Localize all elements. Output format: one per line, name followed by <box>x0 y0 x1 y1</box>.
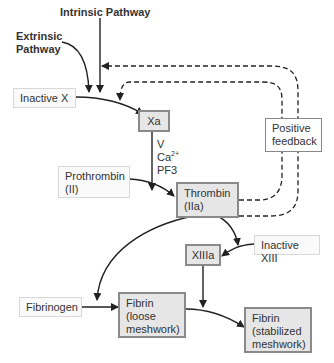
xiiia-node: XIIIa <box>185 244 221 266</box>
fibrin-stable-line2: (stabilized <box>252 325 304 338</box>
fibrin-loose-line1: Fibrin <box>126 297 178 310</box>
thrombin-node: Thrombin (IIa) <box>176 182 239 218</box>
positive-feedback-node: Positive feedback <box>265 118 322 152</box>
extrinsic-line2: Pathway <box>16 43 62 56</box>
cofactor-ca: Ca2+ <box>157 151 179 164</box>
fibrin-loose-node: Fibrin (loose meshwork) <box>118 292 186 338</box>
positive-feedback-line1: Positive <box>272 122 315 135</box>
thrombin-line2: (IIa) <box>184 200 231 213</box>
intrinsic-pathway-label: Intrinsic Pathway <box>60 6 150 19</box>
cofactor-pf3: PF3 <box>157 164 179 177</box>
prothrombin-line1: Prothrombin <box>65 170 123 183</box>
prothrombin-line2: (II) <box>65 183 123 196</box>
positive-feedback-line2: feedback <box>272 135 315 148</box>
inactive-x-label: Inactive X <box>20 92 68 104</box>
fibrin-stable-line1: Fibrin <box>252 312 304 325</box>
inactive-xiii-to-xiiia-arrow <box>222 244 254 256</box>
inactive-x-to-xa-arrow <box>76 97 143 114</box>
thrombin-to-fibrin-arrow <box>97 216 193 300</box>
thrombin-to-xiiia-arrow <box>215 215 238 245</box>
fibrin-loose-line3: meshwork) <box>126 323 178 336</box>
extrinsic-arrow <box>62 42 89 92</box>
inactive-xiii-node: Inactive XIII <box>254 235 320 255</box>
inactive-x-node: Inactive X <box>13 88 76 108</box>
fibrin-stable-line3: meshwork) <box>252 338 304 351</box>
xiiia-label: XIIIa <box>192 249 215 261</box>
cofactor-v: V <box>157 138 179 151</box>
fibrinogen-node: Fibrinogen <box>19 297 82 317</box>
thrombin-line1: Thrombin <box>184 187 231 200</box>
extrinsic-line1: Extrinsic <box>16 30 62 43</box>
prothrombin-node: Prothrombin (II) <box>58 166 130 198</box>
xa-label: Xa <box>147 115 160 127</box>
fibrin-loose-line2: (loose <box>126 310 178 323</box>
fibrin-stable-node: Fibrin (stabilized meshwork) <box>244 307 312 353</box>
xa-node: Xa <box>138 110 170 132</box>
fibrinogen-label: Fibrinogen <box>26 301 78 313</box>
cofactors-label: V Ca2+ PF3 <box>157 138 179 177</box>
extrinsic-pathway-label: Extrinsic Pathway <box>16 30 62 56</box>
fibrin-loose-to-stable-arrow <box>186 309 244 327</box>
